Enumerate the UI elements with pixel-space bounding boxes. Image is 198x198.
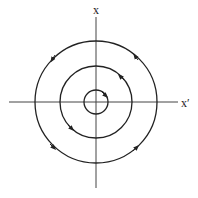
arrow-icon bbox=[68, 125, 72, 129]
outer-orbit-arrows bbox=[50, 55, 138, 151]
horizontal-axis-label: x′ bbox=[181, 96, 190, 110]
vertical-axis-label: x bbox=[93, 3, 99, 17]
phase-portrait-diagram: x x′ bbox=[0, 0, 198, 198]
arrow-icon bbox=[133, 147, 137, 151]
